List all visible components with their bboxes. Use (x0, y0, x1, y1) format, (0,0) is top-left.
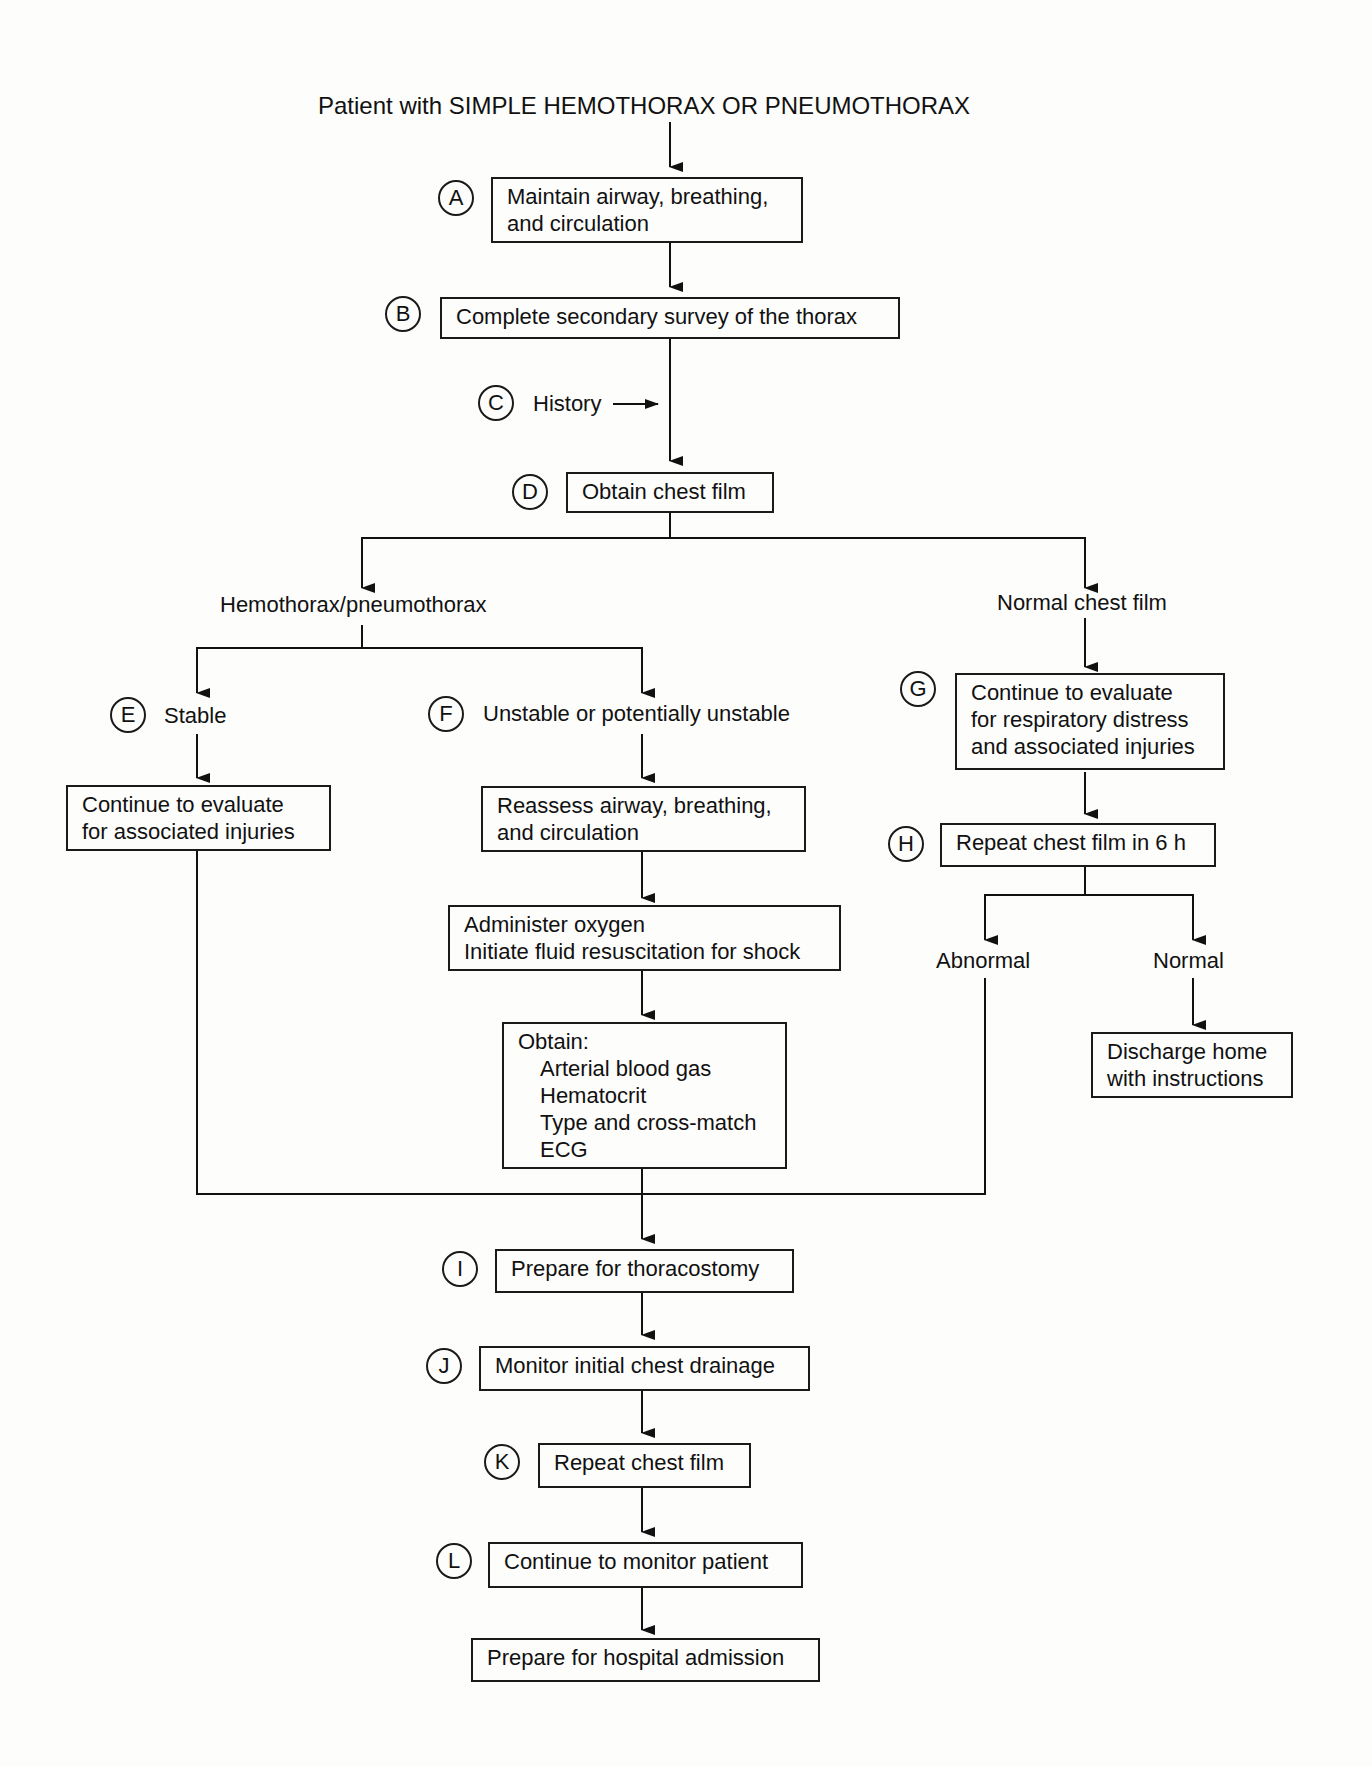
step-marker-j: J (426, 1348, 462, 1384)
obtain-item: Hematocrit (518, 1082, 771, 1109)
step-a-box: Maintain airway, breathing, and circulat… (491, 177, 803, 243)
flowchart: Patient with SIMPLE HEMOTHORAX OR PNEUMO… (0, 0, 1372, 1766)
step-l-box: Continue to monitor patient (488, 1542, 803, 1588)
branch-normal-film-label: Normal chest film (997, 590, 1167, 616)
step-marker-l: L (436, 1543, 472, 1579)
step-marker-e: E (110, 697, 146, 733)
obtain-item: Arterial blood gas (518, 1055, 771, 1082)
step-d-box: Obtain chest film (566, 472, 774, 513)
step-marker-h: H (888, 826, 924, 862)
step-f-label: Unstable or potentially unstable (483, 701, 790, 727)
step-marker-c: C (478, 385, 514, 421)
branch-normal-label: Normal (1153, 948, 1224, 974)
obtain-header: Obtain: (518, 1028, 771, 1055)
step-g-line-3: and associated injuries (971, 733, 1209, 760)
reassess-abc-box: Reassess airway, breathing, and circulat… (481, 786, 806, 852)
branch-abnormal-label: Abnormal (936, 948, 1030, 974)
step-marker-g: G (900, 671, 936, 707)
step-e-label: Stable (164, 703, 226, 729)
connector-lines (0, 0, 1372, 1766)
step-marker-a: A (438, 180, 474, 216)
associated-injuries-line-1: Continue to evaluate (82, 791, 315, 818)
step-g-line-1: Continue to evaluate (971, 679, 1209, 706)
hospital-admission-box: Prepare for hospital admission (471, 1638, 820, 1682)
branch-hemothorax-label: Hemothorax/pneumothorax (220, 592, 487, 618)
obtain-item: Type and cross-match (518, 1109, 771, 1136)
step-marker-b: B (385, 296, 421, 332)
obtain-labs-box: Obtain: Arterial blood gas Hematocrit Ty… (502, 1022, 787, 1169)
step-k-box: Repeat chest film (538, 1443, 751, 1488)
step-j-box: Monitor initial chest drainage (479, 1346, 810, 1391)
reassess-line-2: and circulation (497, 819, 790, 846)
step-marker-f: F (428, 696, 464, 732)
reassess-line-1: Reassess airway, breathing, (497, 792, 790, 819)
discharge-box: Discharge home with instructions (1091, 1032, 1293, 1098)
step-a-line-2: and circulation (507, 210, 787, 237)
associated-injuries-box: Continue to evaluate for associated inju… (66, 785, 331, 851)
discharge-line-2: with instructions (1107, 1065, 1277, 1092)
step-a-line-1: Maintain airway, breathing, (507, 183, 787, 210)
discharge-line-1: Discharge home (1107, 1038, 1277, 1065)
step-c-label: History (533, 391, 601, 417)
oxygen-line-2: Initiate fluid resuscitation for shock (464, 938, 825, 965)
step-marker-k: K (484, 1444, 520, 1480)
oxygen-line-1: Administer oxygen (464, 911, 825, 938)
associated-injuries-line-2: for associated injuries (82, 818, 315, 845)
flowchart-title: Patient with SIMPLE HEMOTHORAX OR PNEUMO… (318, 92, 970, 120)
step-g-line-2: for respiratory distress (971, 706, 1209, 733)
step-h-box: Repeat chest film in 6 h (940, 823, 1216, 867)
obtain-item: ECG (518, 1136, 771, 1163)
step-i-box: Prepare for thoracostomy (495, 1249, 794, 1293)
step-g-box: Continue to evaluate for respiratory dis… (955, 673, 1225, 770)
step-marker-i: I (442, 1251, 478, 1287)
oxygen-fluid-box: Administer oxygen Initiate fluid resusci… (448, 905, 841, 971)
step-marker-d: D (512, 474, 548, 510)
step-b-box: Complete secondary survey of the thorax (440, 297, 900, 339)
